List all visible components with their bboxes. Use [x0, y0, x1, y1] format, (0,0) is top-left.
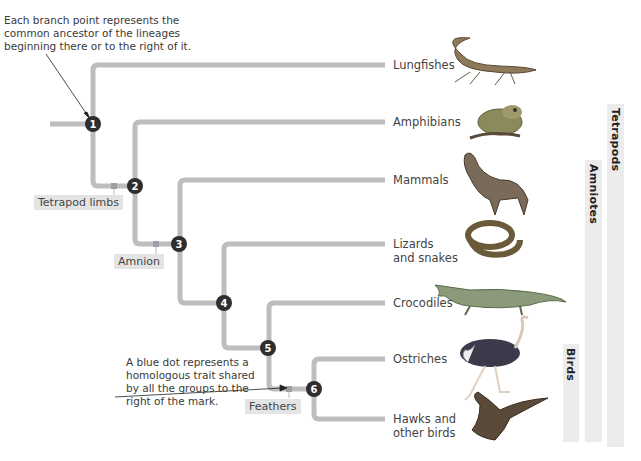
svg-text:2: 2 — [132, 181, 139, 192]
trait-label-amnion: Amnion — [114, 254, 164, 269]
taxon-ostriches: Ostriches — [393, 352, 447, 366]
svg-text:1: 1 — [90, 119, 97, 130]
note-branch-point: Each branch point represents the common … — [4, 14, 191, 53]
taxon-mammals: Mammals — [393, 173, 449, 187]
frog-illustration — [470, 105, 522, 138]
svg-text:3: 3 — [176, 239, 183, 250]
trait-label-feathers: Feathers — [245, 399, 301, 414]
trait-marker-feathers — [286, 386, 292, 392]
taxon-lungfishes: Lungfishes — [393, 58, 455, 72]
svg-text:5: 5 — [265, 343, 272, 354]
svg-text:6: 6 — [311, 384, 318, 395]
taxon-hawks-and-other-birds: Hawks andother birds — [393, 412, 456, 440]
trait-marker-tetrapod-limbs — [111, 183, 117, 189]
taxon-crocodiles: Crocodiles — [393, 296, 453, 310]
snake-illustration — [468, 223, 520, 255]
trait-label-tetrapod-limbs: Tetrapod limbs — [34, 195, 123, 210]
taxon-lizards-and-snakes: Lizardsand snakes — [393, 237, 458, 265]
wolf-illustration — [464, 153, 528, 215]
note-blue-dot: A blue dot represents a homologous trait… — [126, 356, 255, 408]
hawk-illustration — [472, 392, 548, 440]
ostrich-illustration — [460, 317, 528, 400]
trait-marker-amnion — [153, 241, 159, 247]
phylogenetic-tree: 1 2 3 4 5 6 — [0, 0, 641, 461]
crocodile-illustration — [435, 285, 566, 315]
svg-text:4: 4 — [221, 298, 228, 309]
taxon-amphibians: Amphibians — [393, 115, 461, 129]
lungfish-illustration — [453, 38, 536, 85]
